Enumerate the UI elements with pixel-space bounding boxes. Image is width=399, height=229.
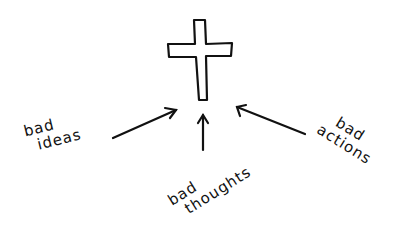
arrow-thoughts-icon (198, 115, 208, 150)
arrow-ideas-icon (113, 108, 176, 138)
cross-icon (168, 20, 232, 100)
diagram-canvas: bad ideas bad thoughts bad actions (0, 0, 399, 229)
arrow-actions-icon (237, 105, 305, 134)
